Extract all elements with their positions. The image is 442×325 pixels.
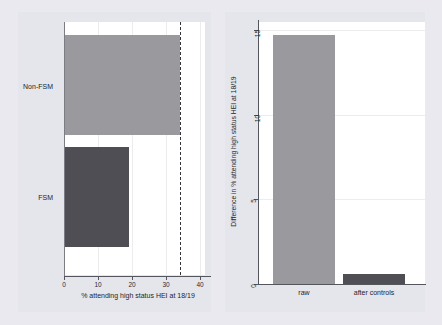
left-gridline-40 — [200, 22, 201, 275]
category-label-non-fsm: Non-FSM — [23, 83, 53, 90]
bar-raw — [273, 35, 335, 284]
left-chart-panel: 0 10 20 30 40 % attending high status HE… — [0, 0, 221, 325]
left-xticklabel-10: 10 — [94, 281, 101, 288]
right-y-axis-line — [258, 20, 259, 285]
left-xticklabel-0: 0 — [62, 281, 66, 288]
left-xtick-30 — [166, 277, 167, 280]
right-yticklabel-0: 0 — [250, 284, 257, 288]
category-label-after-controls: after controls — [354, 289, 394, 296]
left-xtick-10 — [98, 277, 99, 280]
left-xticklabel-30: 30 — [162, 281, 169, 288]
left-xticklabel-40: 40 — [196, 281, 203, 288]
left-x-axis-line — [64, 276, 211, 277]
bar-after-controls — [343, 274, 405, 284]
right-y-axis-title: Difference in % attending high status HE… — [230, 76, 237, 226]
category-label-raw: raw — [298, 289, 309, 296]
reference-line-dashed — [180, 22, 181, 275]
category-label-fsm: FSM — [38, 194, 53, 201]
right-yticklabel-15: 15 — [254, 30, 261, 37]
left-xticklabel-20: 20 — [128, 281, 135, 288]
right-chart-panel: 15 10 5 0 Difference in % attending high… — [221, 0, 442, 325]
right-x-axis-line — [258, 284, 426, 285]
bar-fsm — [65, 147, 129, 247]
left-y-axis-line — [64, 22, 65, 276]
figure-container: 0 10 20 30 40 % attending high status HE… — [0, 0, 442, 325]
right-gridline-15 — [259, 30, 425, 31]
bar-non-fsm — [65, 35, 180, 135]
left-xtick-0 — [64, 277, 65, 280]
left-xtick-40 — [200, 277, 201, 280]
left-xtick-20 — [132, 277, 133, 280]
right-yticklabel-10: 10 — [254, 115, 261, 122]
right-yticklabel-5: 5 — [250, 199, 257, 203]
left-x-axis-title: % attending high status HEI at 18/19 — [81, 292, 195, 299]
